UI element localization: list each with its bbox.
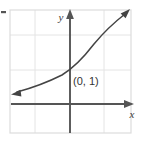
y-intercept-label: (0, 1) [73,75,99,87]
x-axis-label: x [129,108,135,120]
exponential-graph-figure: y x (0, 1) [0,0,142,141]
graph-canvas: y x (0, 1) [0,0,142,141]
stray-mark [1,11,6,13]
y-axis-label: y [58,11,64,23]
